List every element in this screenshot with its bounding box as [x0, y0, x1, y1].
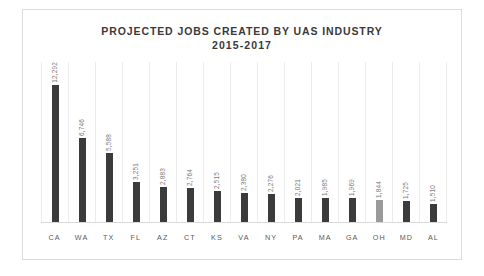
x-axis-labels: CAWATXFLAZCTKSVANYPAMAGAOHMDAL	[41, 228, 447, 246]
x-axis-line	[41, 222, 447, 223]
axis-label-az: AZ	[149, 233, 176, 242]
bar-stack: 5,588	[96, 62, 122, 223]
bar-cell[interactable]: 1,510	[420, 62, 447, 223]
bar-value-label: 6,746	[79, 119, 85, 136]
bar-cell[interactable]: 1,969	[339, 62, 366, 223]
bar-value-label: 2,380	[241, 174, 247, 191]
bar-cell[interactable]: 12,292	[41, 62, 69, 223]
bar-ca[interactable]	[52, 85, 59, 223]
bar-al[interactable]	[430, 204, 437, 223]
bar-value-label: 1,985	[322, 179, 328, 196]
bar-pa[interactable]	[295, 198, 302, 223]
axis-label-ct: CT	[176, 233, 203, 242]
bar-cell[interactable]: 5,588	[96, 62, 123, 223]
axis-label-ny: NY	[258, 233, 285, 242]
bar-cell[interactable]: 2,380	[231, 62, 258, 223]
bar-az[interactable]	[160, 187, 167, 223]
bar-value-label: 5,588	[106, 134, 112, 151]
bar-value-label: 2,515	[214, 172, 220, 189]
axis-label-ga: GA	[339, 233, 366, 242]
chart-subtitle: 2015-2017	[23, 38, 461, 52]
axis-label-ca: CA	[41, 233, 68, 242]
bar-ma[interactable]	[322, 198, 329, 223]
bar-series: 12,2926,7465,5883,2512,8832,7642,5152,38…	[41, 62, 447, 223]
bar-fl[interactable]	[133, 182, 140, 223]
bar-stack: 3,251	[123, 62, 149, 223]
bar-stack: 6,746	[69, 62, 95, 223]
bar-stack: 2,276	[258, 62, 284, 223]
bar-value-label: 2,764	[187, 169, 193, 186]
bar-cell[interactable]: 2,021	[285, 62, 312, 223]
bar-stack: 2,021	[285, 62, 311, 223]
bar-value-label: 1,844	[376, 181, 382, 198]
axis-label-pa: PA	[285, 233, 312, 242]
axis-label-ma: MA	[312, 233, 339, 242]
bar-value-label: 1,510	[430, 185, 436, 202]
bar-ct[interactable]	[187, 188, 194, 223]
bar-cell[interactable]: 1,985	[312, 62, 339, 223]
bar-cell[interactable]: 3,251	[123, 62, 150, 223]
bar-value-label: 2,276	[268, 175, 274, 192]
bar-ga[interactable]	[349, 198, 356, 223]
bar-stack: 2,380	[231, 62, 257, 223]
bar-cell[interactable]: 2,883	[150, 62, 177, 223]
bar-value-label: 2,021	[295, 179, 301, 196]
axis-label-al: AL	[420, 233, 447, 242]
bar-va[interactable]	[241, 193, 248, 223]
axis-label-tx: TX	[95, 233, 122, 242]
bar-oh[interactable]	[376, 200, 383, 223]
bar-cell[interactable]: 6,746	[69, 62, 96, 223]
axis-label-ks: KS	[203, 233, 230, 242]
bar-value-label: 3,251	[133, 163, 139, 180]
bar-stack: 1,844	[366, 62, 392, 223]
bar-cell[interactable]: 1,725	[393, 62, 420, 223]
axis-label-oh: OH	[366, 233, 393, 242]
bar-stack: 2,883	[150, 62, 176, 223]
bar-md[interactable]	[403, 201, 410, 223]
bar-ks[interactable]	[214, 191, 221, 223]
chart-container: PROJECTED JOBS CREATED BY UAS INDUSTRY 2…	[22, 9, 462, 260]
axis-label-fl: FL	[122, 233, 149, 242]
bar-cell[interactable]: 2,515	[204, 62, 231, 223]
bar-value-label: 1,969	[349, 179, 355, 196]
axis-label-md: MD	[393, 233, 420, 242]
bar-cell[interactable]: 2,276	[258, 62, 285, 223]
bar-wa[interactable]	[79, 138, 86, 223]
bar-stack: 1,985	[312, 62, 338, 223]
bar-stack: 2,515	[204, 62, 230, 223]
bar-value-label: 1,725	[403, 182, 409, 199]
bar-cell[interactable]: 1,844	[366, 62, 393, 223]
bar-cell[interactable]: 2,764	[177, 62, 204, 223]
axis-label-va: VA	[230, 233, 257, 242]
chart-title: PROJECTED JOBS CREATED BY UAS INDUSTRY	[23, 24, 461, 38]
axis-label-wa: WA	[68, 233, 95, 242]
bar-tx[interactable]	[106, 153, 113, 223]
bar-stack: 12,292	[42, 62, 68, 223]
bar-stack: 1,969	[339, 62, 365, 223]
bar-stack: 2,764	[177, 62, 203, 223]
bar-value-label: 2,883	[160, 168, 166, 185]
plot-area: 12,2926,7465,5883,2512,8832,7642,5152,38…	[41, 62, 447, 223]
bar-ny[interactable]	[268, 194, 275, 223]
bar-stack: 1,510	[420, 62, 446, 223]
bar-value-label: 12,292	[52, 62, 58, 83]
chart-title-block: PROJECTED JOBS CREATED BY UAS INDUSTRY 2…	[23, 24, 461, 52]
bar-stack: 1,725	[393, 62, 419, 223]
